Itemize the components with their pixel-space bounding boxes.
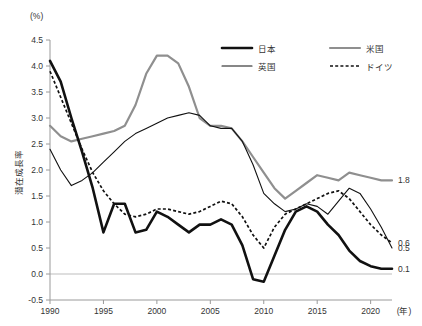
y-tick-label: 2.5 (31, 139, 43, 149)
series-end-labels-group: 1.80.50.60.1 (398, 175, 410, 273)
x-tick-label: 1995 (94, 306, 113, 316)
y-tick-label: 1.0 (31, 217, 43, 227)
x-tick-label: 2010 (254, 306, 273, 316)
series-end-label-japan: 0.1 (398, 264, 410, 274)
y-tick-label: 1.5 (31, 191, 43, 201)
chart-container: (%) 潜在成長率 4.54.03.53.02.52.01.51.00.50.0… (0, 0, 422, 326)
y-axis-ticks: 4.54.03.53.02.52.01.51.00.50.0-0.5 (28, 35, 50, 305)
potential-growth-rate-line-chart: (%) 潜在成長率 4.54.03.53.02.52.01.51.00.50.0… (0, 0, 422, 326)
y-tick-label: 4.0 (31, 61, 43, 71)
series-line-japan (50, 61, 392, 282)
x-axis-unit-label: (年) (397, 306, 412, 316)
y-tick-label: 4.5 (31, 35, 43, 45)
x-tick-label: 2020 (361, 306, 380, 316)
y-tick-label: 2.0 (31, 165, 43, 175)
x-axis-ticks: 1990199520002005201020152020 (41, 300, 381, 316)
legend-label-japan: 日本 (258, 44, 276, 54)
series-end-label-us: 1.8 (398, 175, 410, 185)
legend-label-germany: ドイツ (366, 62, 393, 72)
legend-label-uk: 英国 (258, 62, 276, 72)
y-axis-title: 潜在成長率 (14, 150, 24, 195)
x-tick-label: 2005 (201, 306, 220, 316)
legend-label-us: 米国 (366, 44, 384, 54)
chart-legend: 日本米国英国ドイツ (222, 44, 393, 72)
y-tick-label: 0.0 (31, 269, 43, 279)
series-end-label-germany: 0.6 (398, 238, 410, 248)
y-axis-unit-label: (%) (30, 11, 43, 21)
y-tick-label: 3.5 (31, 87, 43, 97)
x-tick-label: 1990 (41, 306, 60, 316)
y-tick-label: 0.5 (31, 243, 43, 253)
y-tick-label: -0.5 (28, 295, 43, 305)
series-line-us (50, 56, 392, 199)
y-tick-label: 3.0 (31, 113, 43, 123)
x-tick-label: 2000 (147, 306, 166, 316)
x-tick-label: 2015 (308, 306, 327, 316)
series-paths-group (50, 56, 392, 282)
